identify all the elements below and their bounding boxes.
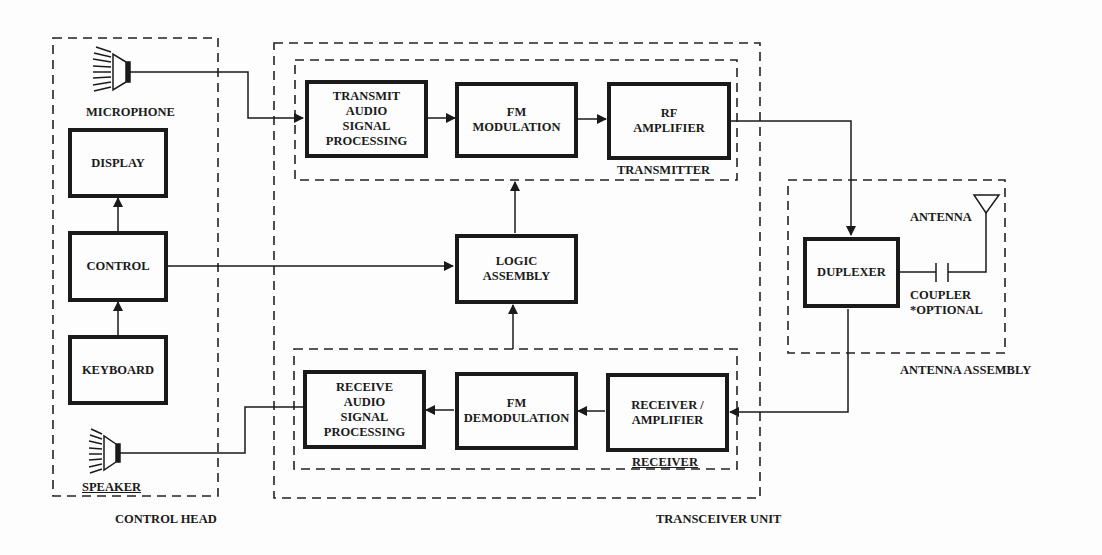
antenna-icon — [974, 195, 999, 213]
wire-rf-amp-to-duplexer — [731, 121, 851, 235]
speaker-label: SPEAKER — [82, 480, 141, 495]
transceiver-unit-label: TRANSCEIVER UNIT — [656, 512, 781, 527]
microphone-label: MICROPHONE — [86, 105, 175, 120]
control-head-label: CONTROL HEAD — [115, 512, 217, 527]
coupler-label: COUPLER *OPTIONAL — [910, 288, 983, 318]
microphone-icon — [93, 47, 130, 91]
receive-audio-processing-block: RECEIVE AUDIO SIGNAL PROCESSING — [303, 370, 426, 449]
wire-duplexer-to-rx-amp — [730, 309, 848, 412]
transmitter-label: TRANSMITTER — [617, 163, 710, 178]
antenna-label: ANTENNA — [910, 210, 972, 225]
transmit-audio-processing-block: TRANSMIT AUDIO SIGNAL PROCESSING — [305, 80, 428, 158]
keyboard-block: KEYBOARD — [68, 335, 168, 405]
wire-rx-audio-to-speaker — [120, 407, 303, 453]
fm-demodulation-block: FM DEMODULATION — [455, 372, 578, 450]
antenna-assembly-label: ANTENNA ASSEMBLY — [900, 363, 1031, 378]
receiver-amplifier-block: RECEIVER / AMPLIFIER — [606, 373, 729, 452]
speaker-icon — [89, 429, 120, 473]
rf-amplifier-block: RF AMPLIFIER — [607, 82, 731, 160]
fm-modulation-block: FM MODULATION — [455, 82, 578, 158]
display-block: DISPLAY — [68, 128, 168, 198]
logic-assembly-block: LOGIC ASSEMBLY — [455, 234, 578, 304]
receiver-label: RECEIVER — [632, 455, 698, 470]
duplexer-block: DUPLEXER — [803, 237, 900, 308]
transceiver-block-diagram: DISPLAY CONTROL KEYBOARD TRANSMIT AUDIO … — [0, 0, 1102, 555]
control-block: CONTROL — [68, 231, 168, 302]
